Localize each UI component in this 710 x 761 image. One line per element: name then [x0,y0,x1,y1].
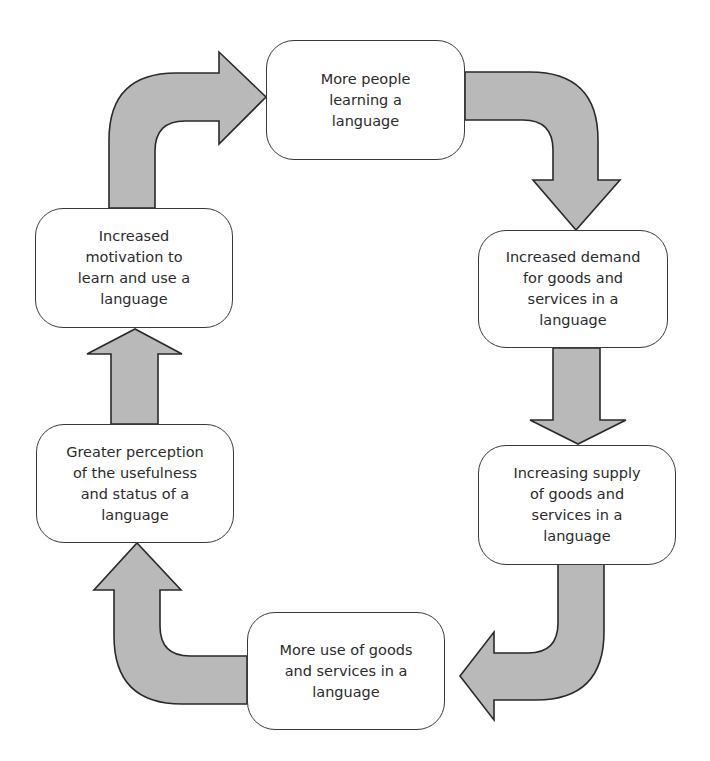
node-label: Increasing supply of goods and services … [513,463,640,547]
node-label: More people learning a language [321,69,411,132]
curved-arrow-supply-to-use [460,564,604,720]
down-arrow-demand-to-supply [530,348,626,444]
node-label: More use of goods and services in a lang… [279,640,412,703]
node-label: Increased demand for goods and services … [506,247,641,331]
node-label: Greater perception of the usefulness and… [66,442,204,526]
node-more-people-learning: More people learning a language [266,40,465,160]
curved-arrow-learning-to-demand [465,72,620,230]
up-arrow-perception-to-motivation [87,329,182,424]
node-greater-perception: Greater perception of the usefulness and… [36,424,234,543]
curved-arrow-use-to-perception [94,543,247,704]
node-increasing-supply: Increasing supply of goods and services … [478,445,676,565]
node-more-use: More use of goods and services in a lang… [247,612,445,730]
curved-arrow-motivation-to-learning [109,52,266,208]
node-increased-motivation: Increased motivation to learn and use a … [35,208,233,328]
node-label: Increased motivation to learn and use a … [78,226,190,310]
node-increased-demand: Increased demand for goods and services … [478,230,668,348]
